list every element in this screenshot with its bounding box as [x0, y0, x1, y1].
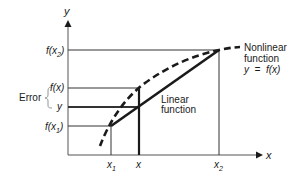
y-value-label: y	[56, 101, 63, 112]
x-axis-arrow-icon	[256, 152, 263, 159]
nonlinear-label-line3: y = f(x)	[243, 64, 280, 75]
y-axis-arrow-icon	[65, 20, 72, 27]
x-label: x	[135, 159, 142, 170]
error-label: Error	[19, 92, 42, 103]
x2-label: x2	[213, 159, 223, 172]
nonlinear-label-line1: Nonlinear	[244, 42, 287, 53]
fx2-label: f(x2)	[46, 45, 64, 58]
nonlinear-label-line2: function	[244, 53, 279, 64]
interpolation-diagram: y x f(x2) f(x) y f(x1) Error x1 x x2 Non…	[0, 0, 293, 182]
y-axis-label: y	[63, 5, 71, 17]
fx1-label: f(x1)	[45, 121, 63, 134]
x1-label: x1	[106, 159, 116, 172]
x-axis-label: x	[265, 149, 272, 161]
linear-label-line2: function	[161, 104, 196, 115]
fx-label: f(x)	[50, 82, 64, 93]
